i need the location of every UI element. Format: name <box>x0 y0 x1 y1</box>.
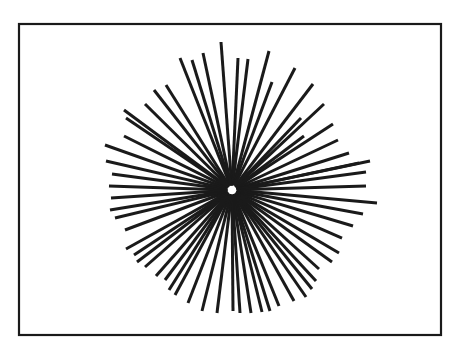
ray-line <box>154 90 229 186</box>
ray-lines <box>105 42 377 313</box>
center-hub-gap <box>228 186 236 194</box>
ray-line <box>232 196 233 311</box>
starburst-diagram <box>0 0 460 349</box>
